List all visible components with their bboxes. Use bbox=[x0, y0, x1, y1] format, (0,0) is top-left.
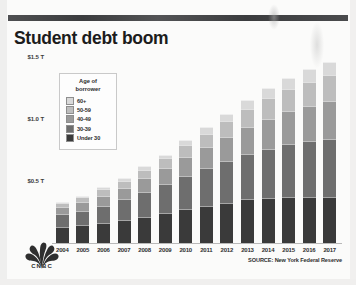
legend-item-label: 40-49 bbox=[77, 116, 91, 122]
segment-30-39 bbox=[159, 184, 172, 213]
segment-50-59 bbox=[118, 181, 131, 188]
bar-2012[interactable] bbox=[220, 114, 233, 244]
segment-30-39 bbox=[323, 139, 336, 197]
bar-2006[interactable] bbox=[97, 187, 110, 244]
x-tick-label: 2017 bbox=[317, 247, 343, 253]
legend-item-30-39[interactable]: 30-39 bbox=[66, 125, 112, 133]
segment-30-39 bbox=[262, 149, 275, 199]
bar-2008[interactable] bbox=[138, 166, 151, 244]
segment-under-30 bbox=[303, 197, 316, 244]
segment-40-49 bbox=[159, 168, 172, 184]
segment-40-49 bbox=[262, 119, 275, 149]
segment-50-59 bbox=[262, 98, 275, 119]
legend-item-label: 50-59 bbox=[77, 107, 91, 113]
segment-50-59 bbox=[138, 170, 151, 179]
chart-source: SOURCE: New York Federal Reserve bbox=[248, 257, 342, 263]
segment-30-39 bbox=[56, 214, 69, 226]
segment-50-59 bbox=[220, 121, 233, 137]
legend-swatch-icon bbox=[66, 134, 74, 142]
segment-30-39 bbox=[138, 192, 151, 217]
chart-legend: Age of borrower 60+50-5940-4930-39Under … bbox=[59, 73, 117, 150]
bar-2005[interactable] bbox=[76, 196, 89, 244]
y-tick-label: $1.0 T bbox=[0, 116, 44, 122]
y-tick-label: $0.5 T bbox=[0, 178, 44, 184]
segment-40-49 bbox=[323, 101, 336, 138]
legend-item-label: 60+ bbox=[77, 98, 86, 104]
segment-under-30 bbox=[282, 197, 295, 244]
legend-item-label: 30-39 bbox=[77, 126, 91, 132]
legend-item-60-[interactable]: 60+ bbox=[66, 97, 112, 105]
segment-50-59 bbox=[282, 89, 295, 111]
segment-under-30 bbox=[138, 217, 151, 244]
bar-2011[interactable] bbox=[200, 127, 213, 244]
segment-under-30 bbox=[76, 225, 89, 244]
legend-swatch-icon bbox=[66, 106, 74, 114]
segment-60- bbox=[241, 100, 254, 109]
segment-30-39 bbox=[303, 141, 316, 197]
segment-under-30 bbox=[159, 213, 172, 244]
legend-item-50-59[interactable]: 50-59 bbox=[66, 106, 112, 114]
x-axis-line bbox=[52, 243, 342, 244]
segment-60- bbox=[282, 78, 295, 89]
segment-under-30 bbox=[118, 220, 131, 244]
segment-under-30 bbox=[97, 223, 110, 244]
bar-2010[interactable] bbox=[179, 140, 192, 244]
legend-item-under-30[interactable]: Under 30 bbox=[66, 134, 112, 142]
segment-50-59 bbox=[323, 75, 336, 101]
segment-40-49 bbox=[282, 111, 295, 143]
segment-40-49 bbox=[97, 196, 110, 206]
scan-artifact-one bbox=[268, 4, 280, 30]
bar-2017[interactable] bbox=[323, 62, 336, 244]
segment-40-49 bbox=[303, 106, 316, 141]
page-bottom-edge bbox=[0, 279, 356, 285]
segment-30-39 bbox=[200, 168, 213, 205]
segment-30-39 bbox=[282, 144, 295, 197]
page-right-edge bbox=[350, 0, 356, 285]
segment-40-49 bbox=[200, 147, 213, 168]
legend-title-line1: Age of bbox=[79, 78, 97, 84]
segment-30-39 bbox=[179, 176, 192, 209]
legend-swatch-icon bbox=[66, 115, 74, 123]
bar-2016[interactable] bbox=[303, 69, 316, 244]
segment-50-59 bbox=[200, 134, 213, 148]
bar-2007[interactable] bbox=[118, 178, 131, 244]
bar-2013[interactable] bbox=[241, 100, 254, 244]
segment-60- bbox=[262, 88, 275, 98]
segment-60- bbox=[303, 69, 316, 81]
legend-item-40-49[interactable]: 40-49 bbox=[66, 115, 112, 123]
page-title: Student debt boom bbox=[14, 28, 168, 49]
legend-title: Age of borrower bbox=[64, 78, 112, 94]
segment-under-30 bbox=[323, 197, 336, 244]
cnbc-wordmark: CNBC bbox=[19, 263, 65, 269]
segment-40-49 bbox=[138, 178, 151, 192]
segment-40-49 bbox=[220, 137, 233, 161]
legend-item-label: Under 30 bbox=[77, 135, 100, 141]
header-rule bbox=[8, 15, 348, 21]
segment-under-30 bbox=[262, 198, 275, 244]
segment-60- bbox=[323, 62, 336, 76]
segment-under-30 bbox=[241, 199, 254, 244]
segment-30-39 bbox=[76, 211, 89, 226]
segment-50-59 bbox=[179, 145, 192, 157]
bar-2004[interactable] bbox=[56, 202, 69, 244]
segment-40-49 bbox=[118, 188, 131, 199]
segment-60- bbox=[220, 114, 233, 121]
segment-50-59 bbox=[303, 82, 316, 107]
bar-2014[interactable] bbox=[262, 88, 275, 244]
segment-under-30 bbox=[220, 203, 233, 244]
bar-2009[interactable] bbox=[159, 155, 172, 244]
page-left-edge bbox=[0, 0, 7, 285]
segment-30-39 bbox=[220, 161, 233, 203]
segment-30-39 bbox=[241, 154, 254, 200]
bar-2015[interactable] bbox=[282, 78, 295, 244]
legend-title-line2: borrower bbox=[75, 86, 100, 92]
legend-swatch-icon bbox=[66, 97, 74, 105]
infographic-page: Student debt boom Total student debt out… bbox=[0, 0, 356, 285]
segment-under-30 bbox=[200, 206, 213, 244]
segment-40-49 bbox=[76, 202, 89, 211]
segment-30-39 bbox=[118, 199, 131, 220]
legend-items: 60+50-5940-4930-39Under 30 bbox=[64, 97, 112, 143]
segment-40-49 bbox=[56, 207, 69, 214]
segment-30-39 bbox=[97, 206, 110, 223]
segment-50-59 bbox=[159, 158, 172, 168]
